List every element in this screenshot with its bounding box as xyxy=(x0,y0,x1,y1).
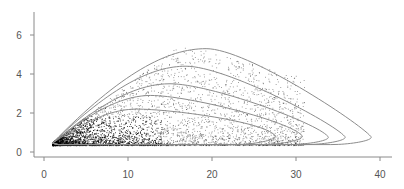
x-tick-label: 40 xyxy=(374,169,386,180)
x-tick-label: 0 xyxy=(41,169,47,180)
y-axis-ticks: 0246 xyxy=(16,30,34,158)
x-tick-label: 10 xyxy=(122,169,134,180)
contour-line xyxy=(52,49,371,145)
y-tick-label: 6 xyxy=(16,30,22,41)
scatter-points xyxy=(52,48,305,146)
density-contours xyxy=(52,49,371,145)
y-tick-label: 2 xyxy=(16,108,22,119)
x-tick-label: 20 xyxy=(206,169,218,180)
y-tick-label: 4 xyxy=(16,69,22,80)
y-tick-label: 0 xyxy=(16,147,22,158)
x-axis-ticks: 010203040 xyxy=(41,157,386,180)
x-tick-label: 30 xyxy=(290,169,302,180)
scatter-contour-chart: 0246 010203040 xyxy=(0,0,404,189)
